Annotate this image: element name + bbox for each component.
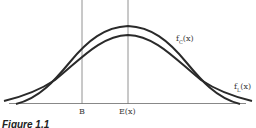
series-label-fl: fL(x) xyxy=(234,83,251,93)
figure: B E(x) fC(x) fL(x) Figure 1.1 xyxy=(0,0,256,128)
tick-label-ex: E(x) xyxy=(119,108,136,116)
series-label-fc: fC(x) xyxy=(176,35,194,45)
tick-label-b: B xyxy=(79,108,85,116)
figure-caption: Figure 1.1 xyxy=(2,119,49,128)
